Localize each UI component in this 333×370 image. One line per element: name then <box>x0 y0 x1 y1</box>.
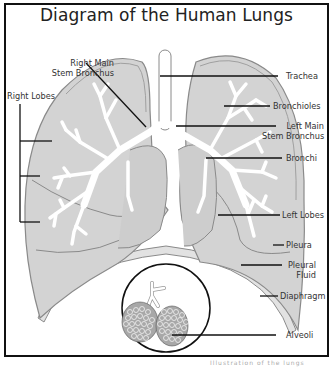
label-pleural-fluid-line1: Pleural <box>284 260 316 270</box>
label-left-main-line1: Left Main <box>262 121 324 131</box>
label-left-main-stem-bronchus: Left Main Stem Bronchus <box>262 121 324 141</box>
lungs-illustration <box>0 0 333 370</box>
label-left-lobes: Left Lobes <box>282 210 324 220</box>
label-right-main-line2: Stem Bronchus <box>34 68 114 78</box>
trachea-shape <box>159 50 171 130</box>
label-pleura: Pleura <box>286 240 312 250</box>
label-bronchioles: Bronchioles <box>273 101 321 111</box>
label-alveoli: Alveoli <box>286 330 313 340</box>
label-right-main-line1: Right Main <box>34 58 114 68</box>
label-right-main-stem-bronchus: Right Main Stem Bronchus <box>34 58 114 78</box>
label-pleural-fluid-line2: Fluid <box>284 270 316 280</box>
label-bronchi: Bronchi <box>286 153 317 163</box>
label-pleural-fluid: Pleural Fluid <box>284 260 316 280</box>
label-right-lobes: Right Lobes <box>7 91 55 101</box>
label-trachea: Trachea <box>286 71 318 81</box>
label-diaphragm: Diaphragm <box>280 291 326 301</box>
label-left-main-line2: Stem Bronchus <box>262 131 324 141</box>
caption: Illustration of the lungs <box>210 359 305 366</box>
